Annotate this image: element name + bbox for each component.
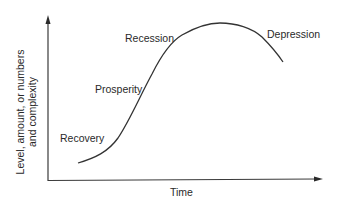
y-axis-arrowhead-icon — [46, 15, 51, 24]
phase-label-prosperity: Prosperity — [95, 83, 143, 95]
x-axis-label: Time — [170, 186, 193, 198]
y-axis-label: Level, amount, or numbers and complexity — [14, 50, 38, 175]
x-axis-line — [48, 179, 316, 181]
business-cycle-diagram: Level, amount, or numbers and complexity… — [0, 0, 339, 205]
x-axis-arrowhead-icon — [314, 177, 323, 182]
y-axis-label-line2: and complexity — [26, 76, 38, 147]
phase-label-recession: Recession — [125, 32, 174, 44]
phase-label-recovery: Recovery — [60, 132, 105, 144]
phase-label-depression: Depression — [267, 28, 320, 40]
y-axis-label-line1: Level, amount, or numbers — [14, 50, 26, 175]
